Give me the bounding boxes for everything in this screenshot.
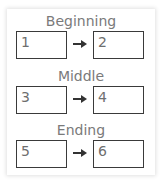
section-ending: Ending 5 6 (7, 122, 155, 172)
box-number: 5 (21, 143, 30, 159)
section-middle: Middle 3 4 (7, 68, 155, 118)
section-beginning: Beginning 1 2 (7, 13, 155, 63)
box-number: 3 (21, 89, 30, 105)
section-heading: Ending (7, 122, 155, 138)
arrow-right-icon (73, 39, 88, 49)
box-number: 2 (98, 34, 107, 50)
box-3: 3 (16, 86, 67, 114)
box-1: 1 (16, 31, 67, 59)
box-2: 2 (93, 31, 144, 59)
box-number: 4 (98, 89, 107, 105)
story-sequence-card: Beginning 1 2 Middle 3 4 Ending 5 (7, 9, 155, 175)
box-number: 1 (21, 34, 30, 50)
box-6: 6 (93, 140, 144, 168)
arrow-right-icon (73, 148, 88, 158)
box-5: 5 (16, 140, 67, 168)
section-heading: Beginning (7, 13, 155, 29)
box-number: 6 (98, 143, 107, 159)
arrow-right-icon (73, 94, 88, 104)
section-heading: Middle (7, 68, 155, 84)
box-4: 4 (93, 86, 144, 114)
